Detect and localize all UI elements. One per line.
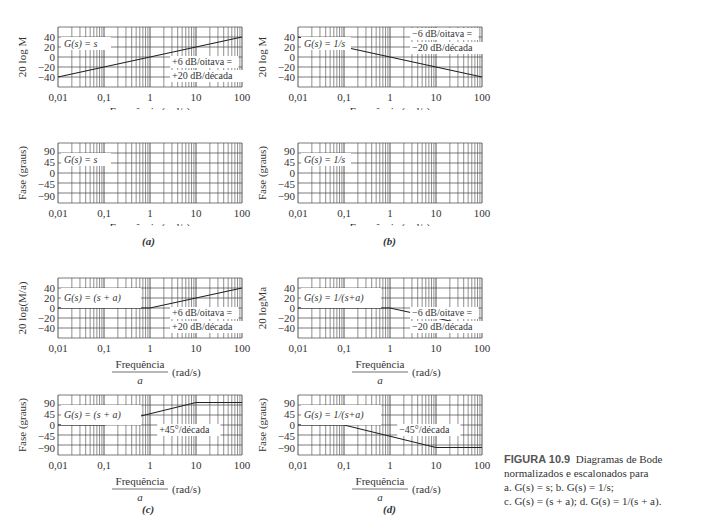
svg-text:10: 10: [431, 342, 443, 354]
svg-text:90: 90: [44, 397, 56, 409]
svg-text:0,01: 0,01: [48, 342, 67, 354]
chart-a-phase: 90450−45−900,010,1110100Fase (graus)Freq…: [8, 141, 268, 226]
svg-text:10: 10: [431, 91, 443, 103]
svg-text:0,01: 0,01: [48, 91, 67, 103]
svg-text:−20 dB/década: −20 dB/década: [412, 321, 473, 332]
svg-text:0,1: 0,1: [337, 207, 351, 219]
svg-text:45: 45: [44, 408, 56, 420]
svg-text:G(s) = (s + a): G(s) = (s + a): [64, 292, 121, 304]
svg-text:1: 1: [147, 342, 153, 354]
svg-text:Frequência (rad/s): Frequência (rad/s): [350, 105, 431, 110]
svg-text:−45: −45: [278, 178, 296, 190]
svg-text:−90: −90: [38, 442, 56, 454]
svg-text:0,01: 0,01: [48, 207, 67, 219]
svg-text:+20 dB/década: +20 dB/década: [172, 321, 233, 332]
chart-d-phase: 90450−45−900,010,1110100Fase (graus)Freq…: [248, 393, 508, 505]
svg-text:Frequência (rad/s): Frequência (rad/s): [110, 105, 191, 110]
svg-text:+45°/década: +45°/década: [159, 424, 210, 435]
svg-text:−45: −45: [38, 178, 56, 190]
svg-text:0,1: 0,1: [97, 459, 111, 471]
svg-text:10: 10: [431, 459, 443, 471]
chart-d-mag: 40200−20−400,010,111010020 logMaFrequênc…: [248, 276, 508, 388]
svg-text:0: 0: [50, 419, 56, 431]
figure-caption: FIGURA 10.9 Diagramas de Bode normalizad…: [504, 452, 709, 508]
svg-text:20 logMa: 20 logMa: [256, 287, 268, 330]
svg-text:a: a: [137, 491, 143, 503]
svg-text:45: 45: [284, 156, 296, 168]
chart-c-mag: 40200−20−400,010,111010020 log(M/a)Frequ…: [8, 276, 268, 388]
svg-text:100: 100: [474, 342, 491, 354]
svg-text:10: 10: [191, 342, 203, 354]
svg-text:0,01: 0,01: [288, 207, 307, 219]
svg-text:Frequência: Frequência: [356, 475, 405, 487]
svg-text:−40: −40: [38, 322, 56, 334]
svg-text:+20 dB/década: +20 dB/década: [172, 70, 233, 81]
label-b: (b): [383, 235, 396, 247]
svg-text:20 log M: 20 log M: [16, 37, 28, 78]
caption-line-a: a. G(s) = s; b. G(s) = 1/s;: [504, 481, 614, 493]
svg-text:G(s) = 1/s: G(s) = 1/s: [304, 38, 345, 50]
svg-text:G(s) = s: G(s) = s: [64, 38, 98, 50]
svg-text:0,01: 0,01: [288, 459, 307, 471]
svg-text:1: 1: [147, 207, 153, 219]
svg-text:90: 90: [284, 397, 296, 409]
chart-b-phase: 90450−45−900,010,1110100Fase (graus)Freq…: [248, 141, 508, 226]
svg-text:45: 45: [284, 408, 296, 420]
svg-text:Fase (graus): Fase (graus): [256, 398, 269, 452]
chart-b-mag: 40200−20−400,010,111010020 log MFrequênc…: [248, 25, 508, 110]
svg-text:Fase (graus): Fase (graus): [16, 146, 29, 200]
svg-text:1: 1: [387, 342, 393, 354]
svg-text:1: 1: [387, 207, 393, 219]
svg-text:90: 90: [284, 145, 296, 157]
svg-text:0,1: 0,1: [337, 91, 351, 103]
svg-text:(rad/s): (rad/s): [172, 366, 201, 379]
svg-text:−45: −45: [38, 430, 56, 442]
svg-text:−20 dB/década: −20 dB/década: [412, 42, 473, 53]
svg-text:100: 100: [474, 91, 491, 103]
svg-text:0: 0: [290, 167, 296, 179]
svg-text:45: 45: [44, 156, 56, 168]
label-d: (d): [383, 503, 396, 515]
svg-text:100: 100: [474, 207, 491, 219]
svg-text:1: 1: [147, 91, 153, 103]
svg-text:(rad/s): (rad/s): [412, 483, 441, 496]
label-c: (c): [142, 503, 154, 515]
svg-text:−45: −45: [278, 430, 296, 442]
svg-text:−90: −90: [38, 190, 56, 202]
svg-text:0,1: 0,1: [97, 91, 111, 103]
svg-text:Fase (graus): Fase (graus): [256, 146, 269, 200]
svg-text:0,01: 0,01: [288, 91, 307, 103]
svg-text:(rad/s): (rad/s): [172, 483, 201, 496]
svg-text:0,1: 0,1: [97, 207, 111, 219]
svg-text:20 log(M/a): 20 log(M/a): [16, 281, 29, 334]
svg-text:−45°/década: −45°/década: [399, 424, 450, 435]
svg-text:−90: −90: [278, 190, 296, 202]
svg-text:G(s) = (s + a): G(s) = (s + a): [64, 409, 121, 421]
svg-text:10: 10: [191, 459, 203, 471]
figure-number: FIGURA 10.9: [504, 453, 570, 465]
svg-text:G(s) = s: G(s) = s: [64, 154, 98, 166]
svg-text:Frequência (rad/s): Frequência (rad/s): [110, 221, 191, 226]
svg-text:Frequência (rad/s): Frequência (rad/s): [350, 221, 431, 226]
svg-text:Frequência: Frequência: [116, 358, 165, 370]
svg-text:0,1: 0,1: [337, 342, 351, 354]
svg-text:G(s) = 1/(s+a): G(s) = 1/(s+a): [304, 409, 364, 421]
svg-text:90: 90: [44, 145, 56, 157]
caption-line-c: c. G(s) = (s + a); d. G(s) = 1/(s + a).: [504, 495, 661, 507]
svg-text:1: 1: [147, 459, 153, 471]
svg-text:0,01: 0,01: [288, 342, 307, 354]
svg-text:−40: −40: [278, 322, 296, 334]
label-a: (a): [142, 235, 155, 247]
svg-text:a: a: [137, 374, 143, 386]
svg-text:1: 1: [387, 91, 393, 103]
svg-text:0,1: 0,1: [97, 342, 111, 354]
svg-text:a: a: [377, 491, 383, 503]
svg-text:100: 100: [474, 459, 491, 471]
svg-text:−40: −40: [278, 71, 296, 83]
svg-text:Frequência: Frequência: [116, 475, 165, 487]
svg-text:Frequência: Frequência: [356, 358, 405, 370]
svg-text:+6 dB/oitava =: +6 dB/oitava =: [172, 56, 233, 67]
svg-text:−6 dB/oitave =: −6 dB/oitave =: [412, 307, 473, 318]
svg-text:20 log M: 20 log M: [256, 37, 268, 78]
svg-text:10: 10: [431, 207, 443, 219]
